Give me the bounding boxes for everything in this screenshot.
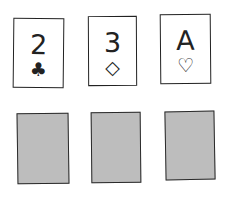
card-2-of-clubs[interactable]: 2 ♣ xyxy=(13,18,65,89)
face-down-card-1[interactable] xyxy=(17,113,70,185)
card-3-of-diamonds[interactable]: 3 ◇ xyxy=(88,16,137,86)
card-rank: 3 xyxy=(104,29,121,56)
card-rank: A xyxy=(176,27,195,54)
diamond-icon: ◇ xyxy=(105,58,120,77)
card-ace-of-hearts[interactable]: A ♡ xyxy=(160,14,212,84)
face-down-card-2[interactable] xyxy=(91,112,142,184)
heart-icon: ♡ xyxy=(177,56,194,75)
face-down-card-3[interactable] xyxy=(164,111,215,181)
card-rank: 2 xyxy=(30,31,47,58)
club-icon: ♣ xyxy=(30,60,47,79)
